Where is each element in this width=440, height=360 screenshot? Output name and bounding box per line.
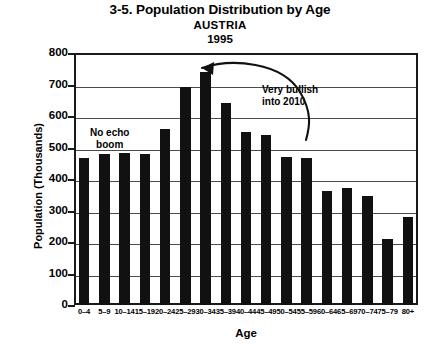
chart-subtitle-year: 1995 [0, 32, 440, 47]
bar [221, 103, 232, 305]
bar [362, 196, 373, 305]
x-axis-tick-labels: 0–45–910–1415–1920–2425–2930–3435–3940–4… [74, 307, 418, 323]
y-axis-tick-label: 500 [22, 141, 68, 153]
bar [119, 153, 130, 305]
x-axis-tick-label: 20–24 [155, 307, 175, 316]
bar [342, 188, 353, 305]
x-axis-tick-label: 60–64 [317, 307, 337, 316]
x-axis-tick-label: 75–79 [378, 307, 398, 316]
x-axis-tick-label: 55–59 [297, 307, 317, 316]
bar [99, 154, 110, 305]
bar [322, 191, 333, 305]
x-axis-tick-label: 5–9 [98, 307, 110, 316]
chart-title: 3-5. Population Distribution by Age [0, 2, 440, 18]
annotation-very-bullish-l2: into 2010 [262, 96, 305, 107]
x-axis-tick-label: 30–34 [195, 307, 215, 316]
bar [301, 158, 312, 305]
x-axis-tick-label: 25–29 [175, 307, 195, 316]
x-axis-tick-label: 65–69 [337, 307, 357, 316]
bar-series [74, 53, 418, 305]
bar [382, 239, 393, 305]
annotation-very-bullish-l1: Very bullish [262, 84, 318, 95]
x-axis-tick-label: 0–4 [78, 307, 90, 316]
annotation-no-echo-boom-l1: No echo [90, 127, 129, 138]
x-axis-tick-label: 15–19 [135, 307, 155, 316]
bar [241, 132, 252, 305]
x-axis-tick-label: 80+ [402, 307, 414, 316]
x-axis-title: Age [74, 327, 418, 339]
bar [281, 157, 292, 305]
x-axis-tick-label: 35–39 [216, 307, 236, 316]
y-axis-tick-label: 800 [22, 46, 68, 58]
y-axis-tick-label: 200 [22, 235, 68, 247]
population-distribution-chart: 3-5. Population Distribution by Age AUST… [0, 0, 440, 360]
y-axis-tick-label: 600 [22, 109, 68, 121]
chart-title-block: 3-5. Population Distribution by Age AUST… [0, 2, 440, 47]
x-axis-tick-label: 50–54 [276, 307, 296, 316]
bar [261, 135, 272, 305]
bar [180, 87, 191, 305]
annotation-no-echo-boom-l2: boom [96, 139, 123, 150]
x-axis-tick-label: 10–14 [115, 307, 135, 316]
y-axis-tick-label: 0 [22, 298, 68, 310]
annotation-no-echo-boom: No echo boom [90, 127, 129, 150]
bar [160, 129, 171, 305]
bar [403, 217, 414, 305]
x-axis-tick-label: 40–44 [236, 307, 256, 316]
x-axis-tick-label: 45–49 [256, 307, 276, 316]
y-axis-tick-label: 300 [22, 204, 68, 216]
bar [200, 72, 211, 305]
y-axis-tick-label: 400 [22, 172, 68, 184]
y-axis-tick-label: 700 [22, 78, 68, 90]
bar [140, 154, 151, 305]
annotation-very-bullish: Very bullish into 2010 [262, 84, 318, 107]
bar [79, 158, 90, 305]
x-axis-tick-label: 70–74 [357, 307, 377, 316]
chart-subtitle-country: AUSTRIA [0, 18, 440, 32]
y-axis-tick-label: 100 [22, 267, 68, 279]
